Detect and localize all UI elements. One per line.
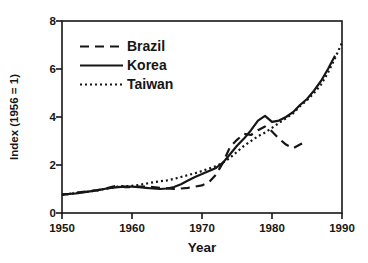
x-tick-label-1950: 1950 (45, 221, 79, 235)
y-tick-label-4: 4 (36, 110, 56, 124)
x-tick-label-1980: 1980 (255, 221, 289, 235)
series-line-brazil (62, 127, 307, 195)
y-tick-label-0: 0 (36, 206, 56, 220)
legend-item-korea: Korea (79, 56, 173, 75)
legend-label-brazil: Brazil (127, 37, 165, 56)
y-tick-label-8: 8 (36, 14, 56, 28)
x-tick-label-1970: 1970 (185, 221, 219, 235)
legend-item-brazil: Brazil (79, 37, 173, 56)
taiwan-dotted-line-icon (79, 75, 124, 94)
x-tick-label-1960: 1960 (115, 221, 149, 235)
legend-label-taiwan: Taiwan (127, 75, 173, 94)
legend-label-korea: Korea (127, 56, 167, 75)
x-axis-label: Year (172, 240, 232, 255)
chart-figure: 0 2 4 6 8 1950 1960 1970 1980 1990 Year … (0, 0, 368, 263)
korea-solid-line-icon (79, 56, 124, 75)
legend-item-taiwan: Taiwan (79, 75, 173, 94)
legend: Brazil Korea Taiwan (79, 37, 173, 94)
y-axis-label: Index (1956 = 1) (8, 74, 20, 160)
x-tick-label-1990: 1990 (325, 221, 359, 235)
y-tick-label-6: 6 (36, 62, 56, 76)
y-tick-label-2: 2 (36, 158, 56, 172)
brazil-dashed-line-icon (79, 37, 124, 56)
